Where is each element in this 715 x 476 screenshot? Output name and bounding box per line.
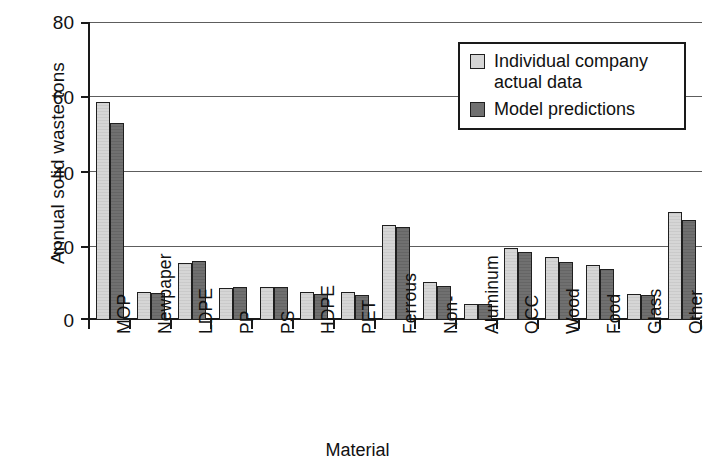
x-tick-mark	[618, 320, 620, 329]
y-tick-mark-40	[81, 171, 90, 173]
x-tick-mark	[374, 320, 376, 329]
x-tick-label: Aluminum	[484, 255, 502, 334]
x-tick-label: LDPE	[198, 288, 216, 334]
x-tick-mark	[333, 320, 335, 329]
x-tick-label: Newpaper	[157, 253, 175, 334]
y-tick-mark-20	[81, 246, 90, 248]
x-tick-label: PET	[361, 300, 379, 334]
legend: Individual company actual data Model pre…	[458, 42, 686, 130]
y-tick-label-0: 0	[30, 311, 74, 330]
legend-label-actual: Individual company actual data	[494, 51, 674, 93]
x-tick-mark	[88, 320, 90, 329]
bar	[464, 304, 478, 320]
bar-group	[219, 22, 247, 320]
x-tick-mark	[170, 320, 172, 329]
x-tick-label: Ferrous	[402, 273, 420, 334]
x-tick-label: Food	[606, 294, 624, 334]
x-tick-mark	[537, 320, 539, 329]
x-tick-label: Wood	[565, 288, 583, 334]
y-tick-label-60: 60	[30, 88, 74, 107]
bar	[382, 225, 396, 320]
bar	[504, 248, 518, 320]
x-tick-label: PS	[280, 310, 298, 334]
bar	[219, 288, 233, 320]
x-tick-label: Other	[688, 290, 706, 334]
bar-group	[96, 22, 124, 320]
y-tick-label-40: 40	[30, 164, 74, 183]
dark-gray-swatch-icon	[470, 102, 485, 117]
bar-group	[423, 22, 451, 320]
x-axis-title: Material	[0, 440, 715, 461]
bar	[96, 102, 110, 320]
bar	[260, 287, 274, 320]
x-tick-mark	[578, 320, 580, 329]
x-tick-label: Glass	[647, 289, 665, 334]
x-tick-mark	[414, 320, 416, 329]
x-tick-mark	[292, 320, 294, 329]
legend-label-model: Model predictions	[494, 99, 635, 120]
light-gray-swatch-icon	[470, 54, 485, 69]
x-tick-mark	[129, 320, 131, 329]
x-tick-mark	[700, 320, 702, 329]
bar	[627, 294, 641, 320]
x-tick-label: HDPE	[320, 285, 338, 334]
x-tick-mark	[210, 320, 212, 329]
legend-entry-actual: Individual company actual data	[470, 51, 674, 93]
x-tick-mark	[251, 320, 253, 329]
bar	[178, 263, 192, 320]
bar	[300, 292, 314, 320]
x-tick-mark	[455, 320, 457, 329]
bar-group	[260, 22, 288, 320]
x-tick-mark	[659, 320, 661, 329]
bar	[110, 123, 124, 320]
x-tick-label: PP	[239, 310, 257, 334]
x-tick-label: OCC	[524, 295, 542, 334]
bar	[137, 292, 151, 320]
y-tick-label-20: 20	[30, 238, 74, 257]
bar	[545, 257, 559, 320]
legend-entry-model: Model predictions	[470, 99, 674, 120]
bar	[668, 212, 682, 320]
x-tick-label: MOP	[116, 294, 134, 334]
bar-chart-figure: Annual solid waste tons 80 60 40 20 0 MO…	[0, 0, 715, 476]
cut-off-caption: ----- ------- ----	[18, 470, 188, 476]
x-tick-label: Non-	[443, 296, 461, 334]
bar-group	[178, 22, 206, 320]
y-tick-mark-60	[81, 96, 90, 98]
bar	[341, 292, 355, 320]
bar	[586, 265, 600, 320]
y-tick-label-80: 80	[30, 13, 74, 32]
x-tick-mark	[496, 320, 498, 329]
bar	[423, 282, 437, 320]
bar-group	[300, 22, 328, 320]
y-tick-mark-80	[81, 22, 90, 24]
bar-group	[341, 22, 369, 320]
